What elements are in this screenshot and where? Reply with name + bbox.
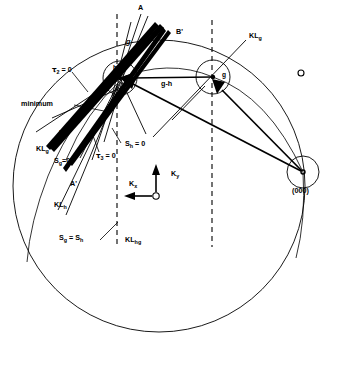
node-g-dot [211, 75, 215, 79]
label-Sg-zero: Sg=0 [54, 157, 70, 166]
node-label-g: g [222, 72, 226, 79]
label-tau2: τ2 = 0 [52, 66, 72, 75]
laue-circle [13, 40, 305, 332]
label-KLg-right: KLg [249, 32, 262, 41]
leader-Sg-eq-Sh [100, 222, 118, 240]
label-A-prime: A' [70, 180, 77, 187]
vector-origin-to-g [212, 79, 301, 170]
label-Kx: Kx [129, 180, 137, 189]
label-KLhg: KLhg [125, 236, 141, 245]
vector-origin-to-h [120, 78, 301, 171]
leader-tau2 [72, 72, 88, 92]
reflection-spot [298, 70, 304, 76]
label-origin-000: (000) [292, 187, 309, 194]
node-h-dot [118, 76, 122, 80]
label-KLg-left: KLg [36, 145, 49, 154]
KLg-line [153, 40, 246, 137]
diffraction-figure: A B' g h g g-h KLg τ2 = 0 minimum B KLg … [0, 0, 339, 385]
figure-canvas [0, 0, 339, 385]
label-B-prime: B' [176, 28, 183, 35]
label-KLh: KLh [54, 201, 67, 210]
label-A: A [138, 4, 143, 11]
label-B: B [59, 129, 64, 136]
label-minimum: minimum [21, 100, 53, 107]
label-g-upper: g [126, 38, 130, 45]
label-tau3: τ3 = 0 [96, 152, 116, 161]
label-Sg-eq-Sh: Sg = Sh [59, 234, 83, 243]
node-label-h: h [113, 65, 117, 72]
label-Ky: Ky [171, 170, 179, 179]
KLg-line-lower [172, 86, 205, 120]
label-Sh-zero: Sh = 0 [125, 140, 145, 149]
label-g-minus-h: g-h [161, 80, 172, 87]
